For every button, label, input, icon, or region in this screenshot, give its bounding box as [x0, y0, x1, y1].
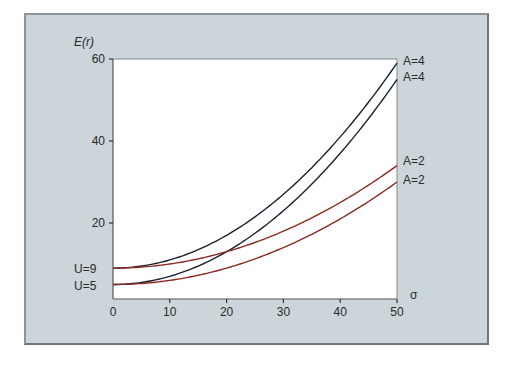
- y-ticks: 204060: [92, 52, 113, 230]
- x-tick-label: 0: [110, 305, 117, 319]
- y-tick-label: 60: [92, 52, 106, 66]
- x-tick-label: 40: [334, 305, 348, 319]
- x-axis-title: σ: [410, 288, 418, 302]
- label-a2-u9: A=2: [403, 154, 425, 168]
- x-tick-label: 20: [220, 305, 234, 319]
- label-u5: U=5: [74, 279, 97, 293]
- y-tick-label: 40: [92, 134, 106, 148]
- label-u9: U=9: [74, 262, 97, 276]
- chart-svg: 204060 01020304050 E(r) σ U=9 U=5 A=4 A=…: [0, 0, 514, 367]
- x-tick-label: 30: [277, 305, 291, 319]
- label-a4-u9: A=4: [403, 54, 425, 68]
- y-tick-label: 20: [92, 216, 106, 230]
- label-a4-u5: A=4: [403, 70, 425, 84]
- x-tick-label: 50: [390, 305, 404, 319]
- y-axis-title: E(r): [74, 35, 94, 49]
- x-ticks: 01020304050: [110, 299, 404, 319]
- x-tick-label: 10: [163, 305, 177, 319]
- label-a2-u5: A=2: [403, 173, 425, 187]
